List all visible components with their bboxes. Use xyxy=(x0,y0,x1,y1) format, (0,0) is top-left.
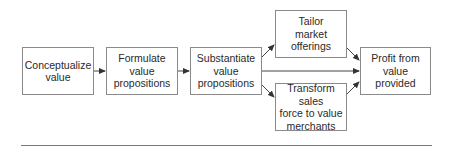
node-substantiate-value-propositions: Substantiate value propositions xyxy=(190,47,262,95)
node-transform-sales-force: Transform sales force to value merchants xyxy=(275,83,347,131)
node-conceptualize-value: Conceptualize value xyxy=(22,47,94,95)
node-label: Conceptualize value xyxy=(25,59,92,84)
bottom-divider xyxy=(21,145,432,146)
arrow-substantiate-to-transform xyxy=(262,85,274,97)
node-label: Profit from value provided xyxy=(371,52,419,90)
node-label: Transform sales force to value merchants xyxy=(276,82,346,132)
arrow-transform-to-profit xyxy=(347,82,359,94)
node-profit-from-value: Profit from value provided xyxy=(360,47,431,95)
node-formulate-value-propositions: Formulate value propositions xyxy=(106,47,178,95)
node-label: Tailor market offerings xyxy=(291,15,331,53)
arrow-tailor-to-profit xyxy=(347,48,359,60)
node-label: Substantiate value propositions xyxy=(197,52,255,90)
node-tailor-market-offerings: Tailor market offerings xyxy=(275,10,347,58)
node-label: Formulate value propositions xyxy=(114,52,171,90)
arrow-substantiate-to-tailor xyxy=(262,45,274,57)
